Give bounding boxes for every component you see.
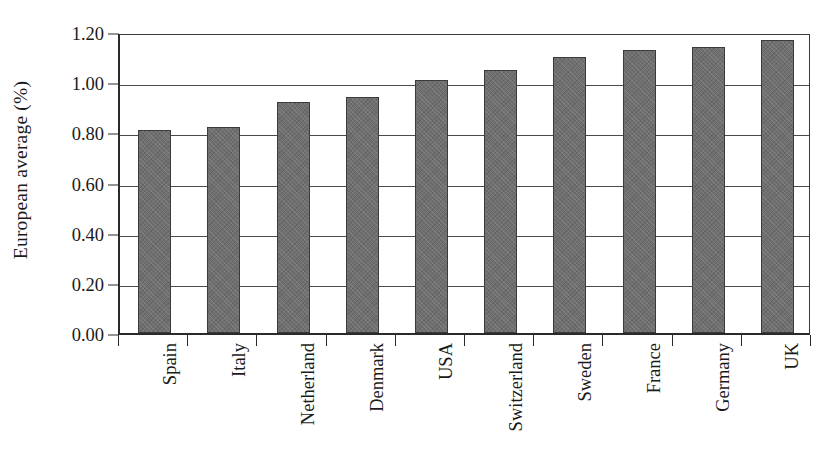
x-axis-tick-label: UK	[782, 343, 802, 468]
x-axis-tick-label: Sweden	[575, 343, 595, 468]
bar	[692, 47, 725, 333]
plot-area	[118, 34, 810, 335]
y-axis-tick-label: 0.80	[72, 124, 104, 145]
y-axis-title: European average (%)	[0, 0, 42, 340]
x-axis-tick-label: Netherland	[298, 343, 318, 468]
bar	[484, 70, 517, 333]
x-axis-tick-label: Spain	[160, 343, 180, 468]
x-axis-tick-label: France	[644, 343, 664, 468]
x-axis-tick-labels: SpainItalyNetherlandDenmarkUSASwitzerlan…	[0, 343, 835, 468]
y-axis-tick-label: 0.20	[72, 274, 104, 295]
y-axis-tick-label: 1.20	[72, 24, 104, 45]
x-axis-tick-label: Switzerland	[506, 343, 526, 468]
x-axis-tick-label: Germany	[713, 343, 733, 468]
y-axis-title-text: European average (%)	[10, 81, 32, 259]
bar	[761, 40, 794, 333]
bar	[138, 130, 171, 333]
bars-layer	[120, 35, 809, 333]
bar	[277, 102, 310, 333]
bar	[415, 80, 448, 333]
x-axis-tick-label: Denmark	[367, 343, 387, 468]
y-axis-tick-label: 0.60	[72, 174, 104, 195]
bar	[346, 97, 379, 333]
bar	[207, 127, 240, 333]
y-axis-tick-label: 1.00	[72, 74, 104, 95]
y-axis-tick-label: 0.40	[72, 224, 104, 245]
bar-chart: European average (%) 0.000.200.400.600.8…	[0, 0, 835, 468]
x-axis-tick-label: Italy	[229, 343, 249, 468]
bar	[623, 50, 656, 333]
x-axis-tick-label: USA	[436, 343, 456, 468]
bar	[553, 57, 586, 333]
